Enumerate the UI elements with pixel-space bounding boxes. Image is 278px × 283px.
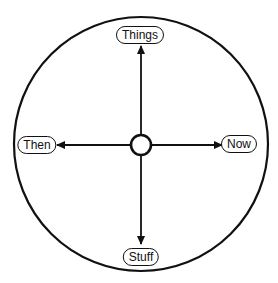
label-left: Then — [17, 136, 56, 154]
label-top: Things — [116, 26, 164, 44]
center-node — [131, 135, 151, 155]
label-bottom: Stuff — [123, 248, 159, 266]
label-right: Now — [221, 135, 257, 153]
